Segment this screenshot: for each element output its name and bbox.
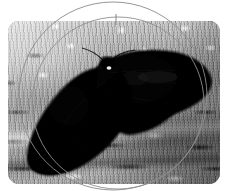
moth-thorax-highlight <box>107 66 112 69</box>
moth-silhouette-svg <box>8 21 220 184</box>
photograph-frame <box>8 21 220 184</box>
moth-wing-sheen <box>138 71 178 83</box>
image-canvas <box>0 0 227 191</box>
photograph-content <box>8 21 220 184</box>
moth-figure <box>8 21 220 184</box>
moth-antenna-left <box>82 48 103 60</box>
